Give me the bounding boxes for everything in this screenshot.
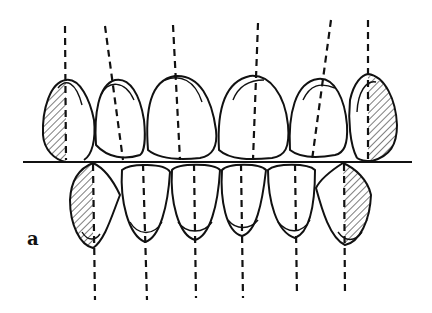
upper-teeth xyxy=(43,74,397,162)
panel-label: a xyxy=(27,228,39,249)
lower-right-canine-axis xyxy=(93,164,95,300)
dental-diagram xyxy=(0,0,432,313)
lower-teeth xyxy=(70,163,371,248)
lower-right-canine xyxy=(70,163,120,248)
upper-left-canine xyxy=(349,74,397,162)
axis-lines xyxy=(65,20,368,300)
lower-left-central-incisor xyxy=(222,165,266,236)
lower-left-lateral-incisor xyxy=(268,165,315,238)
upper-right-central-incisor xyxy=(147,76,216,159)
upper-right-canine xyxy=(43,80,95,162)
